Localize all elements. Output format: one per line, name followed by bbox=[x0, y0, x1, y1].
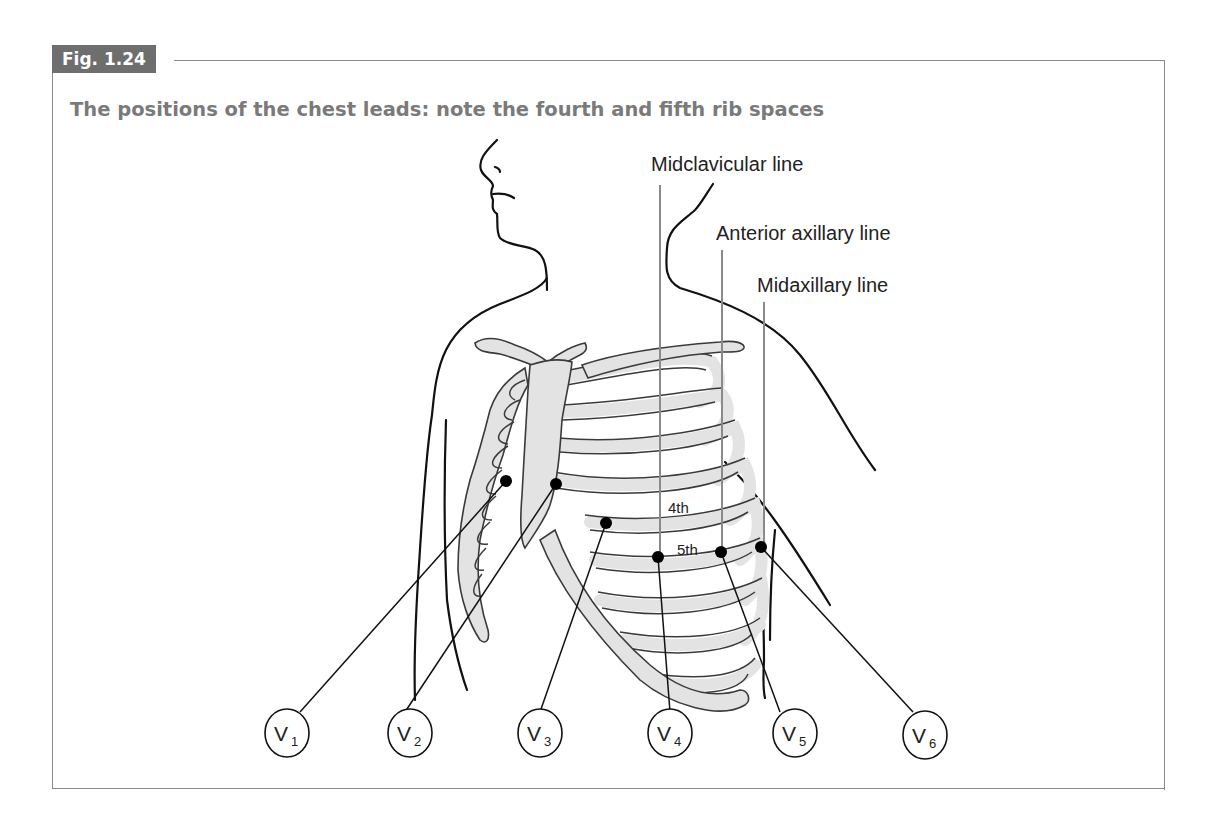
label-4th-rib-space: 4th bbox=[668, 499, 689, 516]
svg-text:V: V bbox=[912, 724, 926, 747]
electrode-v3 bbox=[600, 517, 612, 529]
electrode-v2 bbox=[550, 478, 562, 490]
svg-text:V: V bbox=[274, 722, 288, 745]
lead-label-v4: V 4 bbox=[648, 709, 692, 757]
lead-label-v1: V 1 bbox=[265, 709, 309, 757]
sternum bbox=[521, 360, 572, 548]
chest-lead-diagram: Midclavicular line Anterior axillary lin… bbox=[0, 0, 1207, 831]
label-midaxillary-line: Midaxillary line bbox=[757, 274, 888, 296]
electrode-v4 bbox=[652, 551, 664, 563]
svg-text:V: V bbox=[782, 722, 796, 745]
lead-label-v3: V 3 bbox=[518, 709, 562, 757]
lead-label-v2: V 2 bbox=[388, 709, 432, 757]
left-ribcage bbox=[458, 368, 528, 642]
electrode-v6 bbox=[755, 541, 767, 553]
svg-text:4: 4 bbox=[674, 734, 681, 749]
lead-label-v6: V 6 bbox=[903, 711, 947, 759]
label-5th-rib-space: 5th bbox=[677, 541, 698, 558]
svg-text:3: 3 bbox=[544, 734, 551, 749]
svg-text:2: 2 bbox=[414, 734, 421, 749]
svg-text:5: 5 bbox=[799, 734, 806, 749]
right-ribcage bbox=[540, 352, 763, 711]
svg-text:6: 6 bbox=[929, 736, 936, 751]
svg-text:V: V bbox=[527, 722, 541, 745]
lead-label-v5: V 5 bbox=[773, 709, 817, 757]
svg-text:V: V bbox=[397, 722, 411, 745]
label-midclavicular-line: Midclavicular line bbox=[651, 153, 803, 175]
label-anterior-axillary-line: Anterior axillary line bbox=[716, 222, 891, 244]
svg-text:V: V bbox=[657, 722, 671, 745]
svg-text:1: 1 bbox=[291, 734, 298, 749]
electrode-v5 bbox=[715, 546, 727, 558]
electrode-v1 bbox=[500, 475, 512, 487]
